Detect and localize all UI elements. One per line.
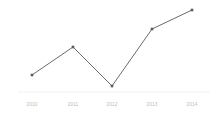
data-point-marker bbox=[151, 28, 154, 31]
x-axis-tick-label: 2013 bbox=[147, 102, 158, 108]
data-series-line bbox=[32, 10, 192, 86]
data-point-marker bbox=[111, 85, 114, 88]
x-axis-tick-label: 2010 bbox=[27, 102, 38, 108]
data-point-marker bbox=[72, 46, 75, 49]
line-chart: 20102011201220132014 bbox=[0, 0, 217, 124]
x-axis-tick-label: 2012 bbox=[107, 102, 118, 108]
data-point-marker bbox=[191, 9, 194, 12]
data-point-marker bbox=[31, 74, 34, 77]
x-axis-tick-label: 2014 bbox=[187, 102, 198, 108]
x-axis-tick-label: 2011 bbox=[68, 102, 78, 108]
